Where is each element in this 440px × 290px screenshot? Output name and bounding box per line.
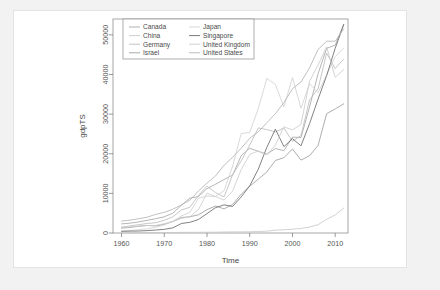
legend-label-united-kingdom: United Kingdom bbox=[203, 41, 250, 49]
line-chart: 0100002000030000400005000019601970198019… bbox=[14, 11, 408, 269]
y-tick-label: 50000 bbox=[101, 25, 110, 45]
legend-label-canada: Canada bbox=[143, 23, 166, 30]
y-axis: 01000020000300004000050000 bbox=[101, 25, 113, 235]
y-tick-label: 10000 bbox=[101, 183, 110, 203]
legend-label-united-states: United States bbox=[203, 49, 243, 56]
x-tick-label: 1970 bbox=[156, 239, 172, 248]
x-tick-label: 1960 bbox=[114, 239, 130, 248]
chart-panel: 0100002000030000400005000019601970198019… bbox=[13, 10, 407, 268]
legend-label-germany: Germany bbox=[143, 41, 171, 49]
legend-label-japan: Japan bbox=[203, 23, 221, 31]
y-tick-label: 0 bbox=[101, 231, 110, 235]
legend-label-israel: Israel bbox=[143, 49, 160, 56]
x-axis: 196019701980199020002010 bbox=[114, 233, 344, 248]
x-tick-label: 2000 bbox=[284, 239, 300, 248]
series-line-japan bbox=[122, 48, 344, 231]
legend-label-singapore: Singapore bbox=[203, 32, 233, 40]
x-tick-label: 1990 bbox=[242, 239, 258, 248]
x-tick-label: 1980 bbox=[199, 239, 215, 248]
y-tick-label: 40000 bbox=[101, 64, 110, 84]
x-axis-title: Time bbox=[222, 256, 240, 265]
screenshot-root: 0100002000030000400005000019601970198019… bbox=[0, 0, 440, 290]
chart-legend: CanadaChinaGermanyIsraelJapanSingaporeUn… bbox=[123, 19, 254, 59]
y-axis-title: gdpTS bbox=[78, 114, 87, 138]
legend-label-china: China bbox=[143, 32, 161, 39]
y-tick-label: 30000 bbox=[101, 104, 110, 124]
series-line-united-kingdom bbox=[122, 47, 344, 228]
x-tick-label: 2010 bbox=[327, 239, 343, 248]
series-line-china bbox=[122, 208, 344, 233]
y-tick-label: 20000 bbox=[101, 144, 110, 164]
plot-root: 0100002000030000400005000019601970198019… bbox=[14, 11, 408, 269]
